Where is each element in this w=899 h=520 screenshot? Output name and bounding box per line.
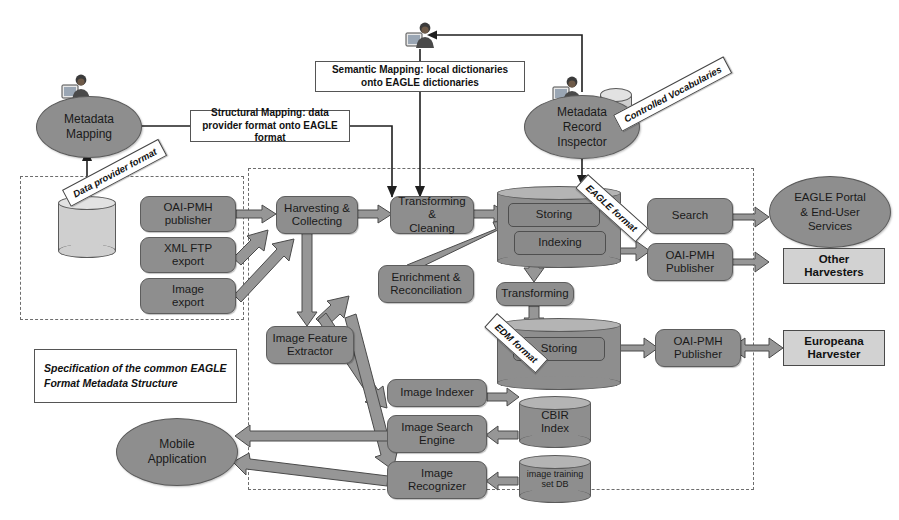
node-transforming[interactable]: Transforming (496, 282, 574, 306)
europeana-harvester-node[interactable]: Europeana Harvester (783, 330, 885, 366)
mobile-application-label: Mobile Application (148, 437, 207, 467)
metadata-record-inspector-label: Metadata Record Inspector (557, 105, 607, 150)
eagle-portal-node[interactable]: EAGLE Portal & End-User Services (769, 176, 891, 248)
node-label: Transforming & Cleaning (394, 195, 470, 235)
cbir-index-label: CBIR Index (519, 409, 591, 435)
node-enrichment-reconciliation[interactable]: Enrichment & Reconciliation (378, 265, 474, 303)
node-label: Image Search Engine (401, 421, 473, 447)
node-label: OAI-PMH Publisher (673, 335, 722, 361)
metadata-mapping-node[interactable]: Metadata Mapping (36, 96, 142, 158)
node-label: Image Recognizer (408, 467, 466, 493)
node-indexing[interactable]: Indexing (514, 231, 606, 255)
node-label: Enrichment & Reconciliation (390, 271, 462, 297)
node-xml-ftp-export[interactable]: XML FTP export (140, 237, 236, 273)
mobile-application-node[interactable]: Mobile Application (116, 418, 238, 486)
node-label: OAI-PMH publisher (163, 201, 212, 227)
node-image-recognizer[interactable]: Image Recognizer (387, 461, 487, 499)
node-oai-pmh-publisher-edm[interactable]: OAI-PMH Publisher (655, 329, 741, 367)
other-harvesters-label: Other Harvesters (804, 253, 863, 279)
node-image-export[interactable]: Image export (140, 278, 236, 314)
node-label: Storing (536, 208, 572, 221)
node-oai-pmh-publisher[interactable]: OAI-PMH publisher (140, 196, 236, 232)
node-search[interactable]: Search (647, 198, 733, 234)
node-label: Transforming (501, 287, 568, 300)
image-training-set-store: image training set DB (519, 455, 591, 503)
europeana-harvester-label: Europeana Harvester (804, 335, 863, 361)
node-label: Image Indexer (400, 386, 474, 399)
node-image-indexer[interactable]: Image Indexer (387, 379, 487, 407)
structural-mapping-note: Structural Mapping: data provider format… (190, 110, 350, 142)
node-storing-eagle[interactable]: Storing (508, 203, 600, 227)
cbir-index-store: CBIR Index (519, 396, 591, 448)
node-label: XML FTP export (164, 242, 212, 268)
architecture-diagram: Semantic Mapping: local dictionaries ont… (0, 0, 899, 520)
data-provider-database (58, 196, 116, 258)
user-icon-semantic-mapping (404, 20, 436, 50)
metadata-mapping-label: Metadata Mapping (64, 112, 114, 142)
structural-mapping-text: Structural Mapping: data provider format… (196, 107, 344, 145)
node-transforming-cleaning[interactable]: Transforming & Cleaning (390, 196, 474, 234)
semantic-mapping-note: Semantic Mapping: local dictionaries ont… (315, 61, 525, 92)
eagle-portal-label: EAGLE Portal & End-User Services (794, 190, 866, 233)
node-label: Indexing (538, 236, 581, 249)
semantic-mapping-text: Semantic Mapping: local dictionaries ont… (321, 64, 519, 89)
node-image-feature-extractor[interactable]: Image Feature Extractor (266, 326, 354, 364)
node-label: Image export (172, 283, 204, 309)
node-image-search-engine[interactable]: Image Search Engine (387, 415, 487, 453)
node-label: Search (672, 209, 708, 222)
specification-text: Specification of the common EAGLE Format… (44, 361, 227, 390)
node-label: Harvesting & Collecting (284, 202, 350, 228)
node-harvesting-collecting[interactable]: Harvesting & Collecting (276, 196, 358, 234)
node-label: Image Feature Extractor (273, 332, 348, 358)
specification-note: Specification of the common EAGLE Format… (34, 349, 237, 403)
image-training-set-label: image training set DB (519, 469, 591, 490)
node-label: Storing (541, 342, 577, 355)
node-label: OAI-PMH Publisher (665, 249, 714, 275)
other-harvesters-node[interactable]: Other Harvesters (783, 248, 885, 284)
node-oai-pmh-publisher-eagle[interactable]: OAI-PMH Publisher (647, 243, 733, 281)
